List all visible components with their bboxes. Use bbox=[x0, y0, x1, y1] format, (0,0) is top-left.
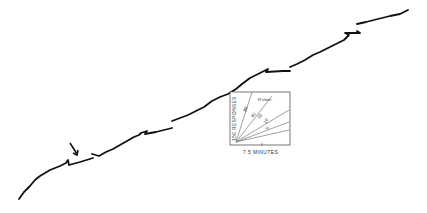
cumulative-record-chart: R's/min 80 40 20 10 5 150 RESPONSES 7.5 … bbox=[0, 0, 427, 213]
inset-ylabel: 150 RESPONSES bbox=[231, 96, 237, 141]
inset-xlabel: 7.5 MINUTES bbox=[243, 149, 279, 155]
record-segment bbox=[357, 10, 408, 24]
rate-unit-label: R's/min bbox=[258, 97, 271, 102]
record-segment bbox=[19, 158, 93, 199]
event-arrow bbox=[70, 143, 78, 155]
inset-legend: R's/min 80 40 20 10 5 150 RESPONSES 7.5 … bbox=[230, 92, 290, 155]
record-segment bbox=[92, 128, 172, 156]
cumulative-record-curve bbox=[19, 10, 408, 199]
record-segment bbox=[290, 31, 360, 67]
